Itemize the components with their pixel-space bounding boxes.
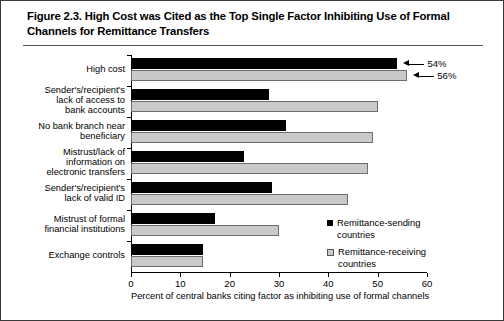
bar-sending bbox=[131, 244, 203, 255]
y-axis-tick bbox=[127, 117, 131, 118]
chart-legend: Remittance-sending countries Remittance-… bbox=[327, 217, 438, 275]
figure-container: Figure 2.3. High Cost was Cited as the T… bbox=[0, 0, 504, 321]
category-label-line: Exchange controls bbox=[7, 249, 125, 259]
category-label-line: lack of access to bbox=[7, 94, 125, 104]
bar-sending bbox=[131, 182, 272, 193]
bar-receiving bbox=[131, 132, 373, 143]
y-axis-tick bbox=[127, 179, 131, 180]
y-axis-category-label: Sender's/recipient'slack of valid ID bbox=[7, 182, 125, 202]
y-axis-tick bbox=[127, 210, 131, 211]
x-axis-tick bbox=[131, 273, 132, 277]
category-label-line: lack of valid ID bbox=[7, 193, 125, 203]
x-axis-tick-label: 10 bbox=[175, 278, 186, 289]
legend-swatch-icon-sending bbox=[327, 220, 333, 226]
annotation-value-label: 56% bbox=[437, 70, 456, 81]
bar-receiving bbox=[131, 101, 378, 112]
legend-item-sending: Remittance-sending countries bbox=[327, 217, 438, 240]
x-axis-tick-label: 20 bbox=[224, 278, 235, 289]
bar-receiving bbox=[131, 256, 203, 267]
bar-receiving bbox=[131, 70, 407, 81]
legend-item-receiving: Remittance-receiving countries bbox=[327, 246, 438, 269]
y-axis-category-label: No bank branch nearbeneficiary bbox=[7, 120, 125, 140]
category-label-line: Sender's/recipient's bbox=[7, 84, 125, 94]
bar-sending bbox=[131, 151, 244, 162]
bar-receiving bbox=[131, 225, 279, 236]
y-axis-category-label: Exchange controls bbox=[7, 249, 125, 259]
bar-receiving bbox=[131, 194, 348, 205]
category-label-line: No bank branch near bbox=[7, 120, 125, 130]
x-axis-title: Percent of central banks citing factor a… bbox=[131, 291, 427, 301]
bar-sending bbox=[131, 213, 215, 224]
y-axis-tick bbox=[127, 241, 131, 242]
legend-label-sending: Remittance-sending countries bbox=[337, 217, 437, 240]
x-axis-tick-label: 0 bbox=[128, 278, 133, 289]
bar-sending bbox=[131, 58, 397, 69]
legend-label-receiving: Remittance-receiving countries bbox=[338, 246, 438, 269]
bar-sending bbox=[131, 89, 269, 100]
legend-swatch-icon-receiving bbox=[327, 249, 334, 256]
annotation-arrow-line bbox=[408, 64, 424, 65]
category-label-line: information on bbox=[7, 156, 125, 166]
category-label-line: bank accounts bbox=[7, 105, 125, 115]
category-label-line: beneficiary bbox=[7, 131, 125, 141]
y-axis-tick bbox=[127, 148, 131, 149]
y-axis-tick bbox=[127, 86, 131, 87]
annotation-value-label: 54% bbox=[427, 58, 446, 69]
y-axis-category-label: Mistrust/lack ofinformation onelectronic… bbox=[7, 146, 125, 177]
category-label-line: Sender's/recipient's bbox=[7, 182, 125, 192]
x-axis-tick-label: 30 bbox=[274, 278, 285, 289]
category-label-line: financial institutions bbox=[7, 224, 125, 234]
y-axis-tick bbox=[127, 55, 131, 56]
category-label-line: Mistrust/lack of bbox=[7, 146, 125, 156]
y-axis-category-label: High cost bbox=[7, 63, 125, 73]
y-axis-category-label: Sender's/recipient'slack of access toban… bbox=[7, 84, 125, 115]
category-label-line: electronic transfers bbox=[7, 167, 125, 177]
bar-sending bbox=[131, 120, 286, 131]
y-axis-category-label: Mistrust of formalfinancial institutions bbox=[7, 213, 125, 233]
x-axis-tick bbox=[230, 273, 231, 277]
x-axis-tick bbox=[279, 273, 280, 277]
bar-receiving bbox=[131, 163, 368, 174]
x-axis-tick bbox=[180, 273, 181, 277]
category-label-line: Mistrust of formal bbox=[7, 213, 125, 223]
category-label-line: High cost bbox=[7, 63, 125, 73]
x-axis-tick-label: 40 bbox=[323, 278, 334, 289]
x-axis-tick-label: 50 bbox=[372, 278, 383, 289]
x-axis-tick-label: 60 bbox=[422, 278, 433, 289]
annotation-arrow-line bbox=[418, 76, 434, 77]
